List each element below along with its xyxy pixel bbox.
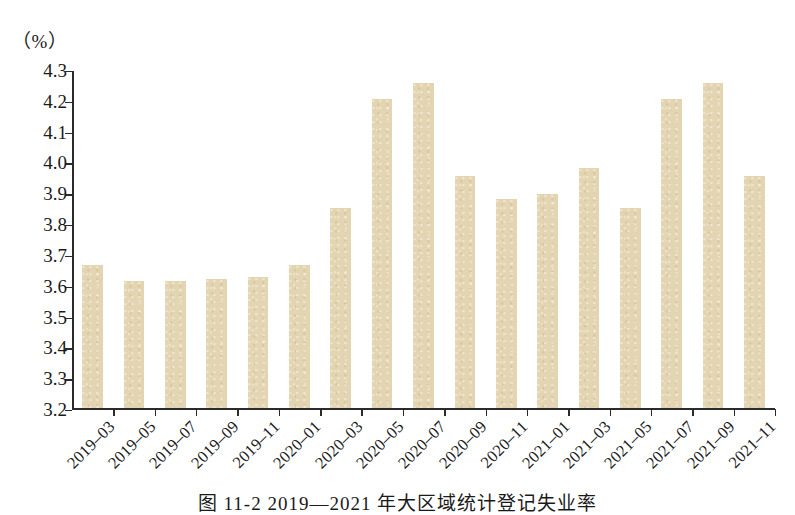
x-axis-tick-mark [113, 409, 114, 416]
bar [496, 199, 517, 409]
bar [330, 208, 351, 408]
bar [413, 83, 434, 408]
x-axis-tick-mark [279, 409, 280, 416]
y-axis-tick-label: 3.4 [43, 338, 67, 357]
y-axis-unit-label: （%） [12, 26, 67, 53]
y-axis-tick-label: 3.9 [43, 184, 67, 203]
bar [744, 176, 765, 409]
x-axis-tick-mark [527, 409, 528, 416]
bar [661, 99, 682, 409]
bar [620, 208, 641, 408]
x-axis-tick-mark [403, 409, 404, 416]
y-axis-tick-label: 3.6 [43, 277, 67, 296]
x-axis-tick-mark [734, 409, 735, 416]
y-axis-tick-label: 3.8 [43, 215, 67, 234]
y-axis-tick-label: 4.1 [43, 123, 67, 142]
bar [165, 281, 186, 408]
plot-area: 4.34.24.14.03.93.83.73.63.53.43.33.2 201… [72, 71, 775, 410]
y-axis-tick-label: 3.5 [43, 308, 67, 327]
y-axis-tick-label: 4.0 [43, 154, 67, 173]
x-axis-tick-mark [775, 409, 776, 416]
bar [248, 277, 269, 408]
y-axis-line [72, 71, 74, 410]
bar [455, 176, 476, 409]
bar [703, 83, 724, 408]
x-axis-tick-mark [610, 409, 611, 416]
y-axis-tick-label: 3.3 [43, 369, 67, 388]
bar [372, 99, 393, 409]
bar [289, 265, 310, 408]
figure-caption: 图 11-2 2019—2021 年大区域统计登记失业率 [0, 488, 795, 515]
x-axis-tick-mark [237, 409, 238, 416]
x-axis-tick-mark [155, 409, 156, 416]
bar [206, 279, 227, 408]
x-axis-tick-mark [486, 409, 487, 416]
bar [579, 168, 600, 408]
y-axis-tick-label: 3.2 [43, 400, 67, 419]
y-axis-tick-label: 4.3 [43, 61, 67, 80]
y-axis-tick-label: 3.7 [43, 246, 67, 265]
x-axis-tick-mark [444, 409, 445, 416]
bar [82, 265, 103, 408]
x-axis-tick-mark [320, 409, 321, 416]
x-axis-tick-mark [692, 409, 693, 416]
x-axis-line [72, 408, 775, 410]
bar [537, 194, 558, 408]
x-axis-tick-mark [196, 409, 197, 416]
y-axis-tick-label: 4.2 [43, 92, 67, 111]
x-axis-tick-mark [361, 409, 362, 416]
x-axis-tick-mark [651, 409, 652, 416]
x-axis-tick-mark [568, 409, 569, 416]
bar [124, 281, 145, 408]
